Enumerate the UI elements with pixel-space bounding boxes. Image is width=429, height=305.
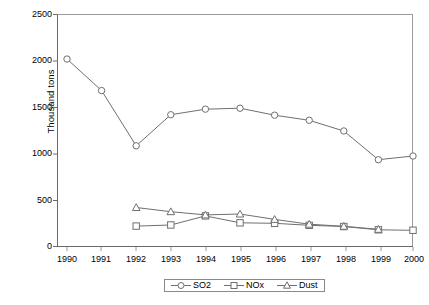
data-point	[410, 153, 416, 159]
data-point	[168, 112, 174, 118]
triangle-marker-icon	[277, 280, 297, 291]
series-so2	[64, 56, 416, 163]
data-point	[133, 223, 139, 229]
data-point	[410, 227, 416, 233]
data-point	[64, 56, 70, 62]
legend-label-dust: Dust	[299, 281, 318, 290]
data-point	[375, 157, 381, 163]
legend-entry-dust: Dust	[277, 280, 318, 291]
circle-marker-icon	[171, 280, 191, 291]
data-point	[237, 105, 243, 111]
data-point	[133, 143, 139, 149]
y-axis-ticks	[53, 15, 57, 247]
square-marker-icon	[224, 280, 244, 291]
legend-label-nox: NOx	[246, 281, 264, 290]
legend-entry-so2: SO2	[171, 280, 211, 291]
data-point	[132, 204, 140, 211]
axis-frame	[57, 15, 413, 248]
legend-entry-nox: NOx	[224, 280, 264, 291]
data-point	[271, 112, 277, 118]
legend-label-so2: SO2	[193, 281, 211, 290]
data-point	[306, 117, 312, 123]
line-chart: Thousand tons 2500 2000 1500 1000 500 0 …	[0, 0, 429, 305]
data-point	[237, 220, 243, 226]
plot-area	[0, 0, 429, 305]
data-point	[98, 87, 104, 93]
chart-legend: SO2 NOx Dust	[164, 279, 325, 292]
data-point	[202, 106, 208, 112]
data-point	[341, 128, 347, 134]
data-series-layer	[64, 56, 416, 234]
data-point	[168, 222, 174, 228]
x-axis-ticks	[67, 247, 413, 251]
